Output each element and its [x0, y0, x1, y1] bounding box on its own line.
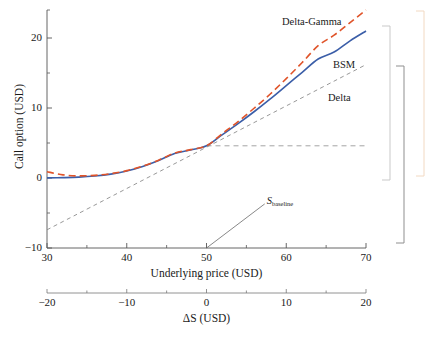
- brackets-group: [382, 11, 424, 243]
- series-label-delta: Delta: [328, 93, 351, 104]
- y-tick-label-0: 0: [0, 172, 42, 183]
- series-label-bsm: BSM: [333, 60, 355, 71]
- secondary-x-tick-label-0: −20: [38, 297, 55, 308]
- y-axis-ticks: [47, 10, 52, 248]
- x-tick-label-30: 30: [42, 252, 53, 263]
- annotation-baseline: Sbaseline: [267, 196, 294, 207]
- bracket-dark: [396, 66, 404, 243]
- series-paths-group: [47, 10, 366, 230]
- secondary-x-axis-ticks: [47, 289, 366, 293]
- secondary-x-axis-title: ΔS (USD): [183, 313, 230, 325]
- x-axis-title: Underlying price (USD): [151, 268, 263, 280]
- figure-container: −10010203040506070−20−1001020BSMDelta-Ga…: [0, 0, 436, 338]
- y-tick-label-20: 20: [0, 32, 42, 43]
- series-label-delta-gamma: Delta-Gamma: [282, 17, 341, 28]
- bracket-orange: [416, 11, 424, 176]
- bracket-gray: [382, 26, 390, 180]
- annotation-leader-lines: [207, 204, 265, 248]
- secondary-x-tick-label-3: 10: [281, 297, 292, 308]
- x-tick-label-70: 70: [361, 252, 372, 263]
- y-axis-title: Call option (USD): [14, 84, 26, 169]
- x-tick-label-50: 50: [201, 252, 212, 263]
- secondary-x-tick-label-2: 0: [204, 297, 210, 308]
- chart-canvas: [0, 0, 436, 338]
- footer-caption-strip: [0, 330, 436, 338]
- secondary-x-tick-label-1: −10: [118, 297, 135, 308]
- y-tick-label--10: −10: [0, 242, 42, 253]
- x-tick-label-40: 40: [121, 252, 132, 263]
- x-tick-label-60: 60: [281, 252, 292, 263]
- secondary-x-tick-label-4: 20: [361, 297, 372, 308]
- x-axis-ticks: [47, 243, 366, 248]
